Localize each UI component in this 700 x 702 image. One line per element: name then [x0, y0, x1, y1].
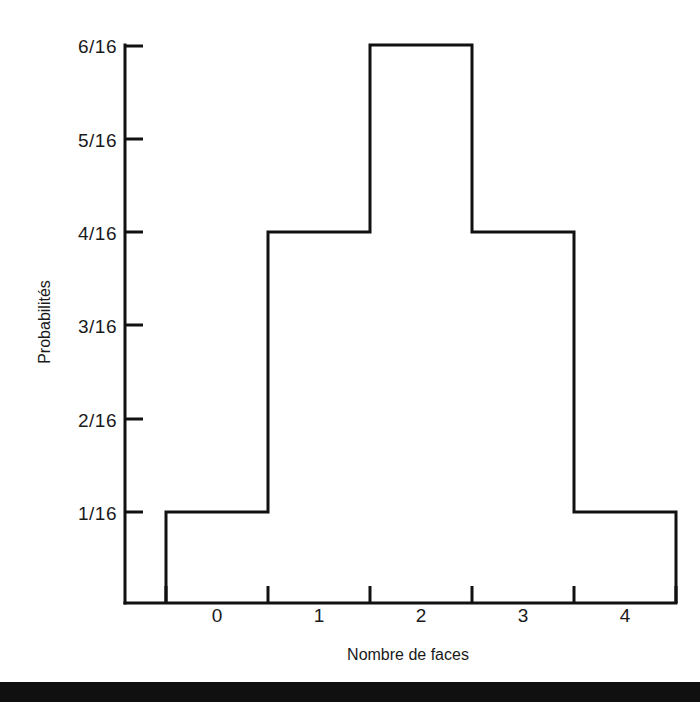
page-bottom-edge-bar — [0, 682, 700, 702]
x-tick-label-3: 3 — [518, 605, 529, 626]
y-axis-title: Probabilités — [36, 280, 53, 364]
y-tick-label-5: 5/16 — [78, 130, 117, 151]
histogram-bars — [166, 45, 676, 603]
x-axis-tick-marks — [166, 586, 676, 603]
histogram-step-outline — [166, 45, 676, 603]
x-axis-title: Nombre de faces — [347, 646, 469, 663]
x-axis-tick-labels: 0 1 2 3 4 — [212, 605, 631, 626]
x-tick-label-0: 0 — [212, 605, 223, 626]
y-tick-label-1: 1/16 — [78, 503, 117, 524]
x-tick-label-2: 2 — [416, 605, 427, 626]
y-axis-tick-marks — [125, 46, 143, 512]
y-tick-label-2: 2/16 — [78, 410, 117, 431]
x-tick-label-4: 4 — [620, 605, 631, 626]
x-tick-label-1: 1 — [314, 605, 325, 626]
figure-container: 6/16 5/16 4/16 3/16 2/16 1/16 — [0, 0, 700, 702]
y-axis-tick-labels: 6/16 5/16 4/16 3/16 2/16 1/16 — [78, 36, 117, 524]
y-tick-label-3: 3/16 — [78, 316, 117, 337]
y-tick-label-4: 4/16 — [78, 223, 117, 244]
y-tick-label-6: 6/16 — [78, 36, 117, 57]
probability-histogram-chart: 6/16 5/16 4/16 3/16 2/16 1/16 — [0, 0, 700, 702]
